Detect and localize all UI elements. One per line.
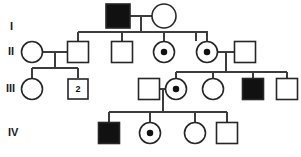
pedigree-chart: 2 IIIIIIIV [0, 0, 301, 157]
generation-label-i: I [10, 20, 13, 32]
generation-label-iv: IV [8, 126, 19, 138]
pedigree-canvas: 2 IIIIIIIV [0, 0, 301, 157]
individual-ii-6-male-unaffected[interactable] [235, 42, 256, 63]
female-circle-symbol [185, 123, 206, 144]
individual-iii-4-female-carrier[interactable] [166, 79, 187, 100]
individual-iii-1-female-unaffected[interactable] [22, 79, 43, 100]
individual-iv-1-male-affected[interactable] [99, 123, 120, 144]
generation-labels-group: IIIIIIIV [6, 20, 19, 138]
carrier-dot-icon [161, 49, 168, 56]
connector-descent [196, 32, 207, 41]
individual-iii-5-female-unaffected[interactable] [203, 79, 224, 100]
individual-iii-6-male-affected[interactable] [243, 79, 264, 100]
male-square-symbol [217, 123, 238, 144]
male-square-symbol [235, 42, 256, 63]
individual-ii-1-female-unaffected[interactable] [22, 42, 43, 63]
individual-ii-4-female-carrier[interactable] [154, 42, 175, 63]
male-square-symbol [112, 42, 133, 63]
male-square-symbol [139, 79, 160, 100]
female-circle-symbol [203, 79, 224, 100]
individual-iv-4-male-unaffected[interactable] [217, 123, 238, 144]
male-square-symbol [106, 4, 130, 28]
individual-ii-2-male-unaffected[interactable] [68, 42, 89, 63]
carrier-dot-icon [204, 49, 211, 56]
individual-i-2-female-unaffected[interactable] [152, 4, 176, 28]
male-square-symbol [68, 42, 89, 63]
individual-iii-7-male-unaffected[interactable] [277, 79, 298, 100]
connection-lines-group [32, 16, 287, 122]
carrier-dot-icon [147, 130, 154, 137]
female-circle-symbol [152, 4, 176, 28]
individual-iv-3-female-unaffected[interactable] [185, 123, 206, 144]
individual-symbols-group: 2 [22, 4, 298, 144]
individual-iii-3-male-unaffected[interactable] [139, 79, 160, 100]
female-circle-symbol [22, 79, 43, 100]
female-circle-symbol [22, 42, 43, 63]
individual-iv-2-female-carrier[interactable] [140, 123, 161, 144]
male-square-symbol [99, 123, 120, 144]
individual-i-1-male-affected[interactable] [106, 4, 130, 28]
individual-ii-3-male-unaffected[interactable] [112, 42, 133, 63]
carrier-dot-icon [173, 86, 180, 93]
individual-iii-2-male-unaffected[interactable]: 2 [68, 79, 88, 99]
male-square-symbol [277, 79, 298, 100]
generation-label-iii: III [6, 82, 15, 94]
generation-label-ii: II [8, 45, 14, 57]
individual-ii-5-female-carrier[interactable] [197, 42, 218, 63]
sibling-count-label: 2 [75, 84, 80, 94]
male-square-symbol [243, 79, 264, 100]
